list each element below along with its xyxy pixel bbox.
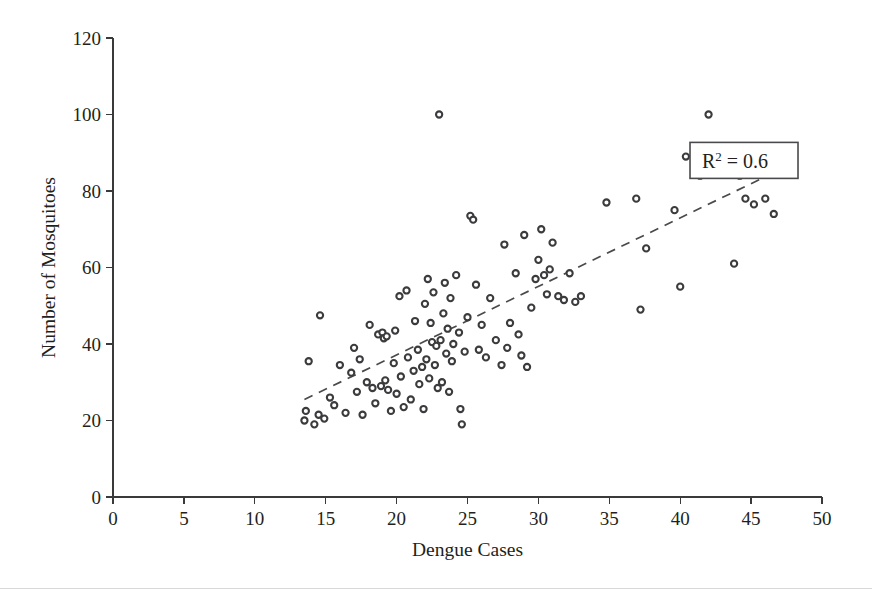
x-axis-title: Dengue Cases xyxy=(412,539,523,560)
data-point xyxy=(450,341,456,347)
data-point xyxy=(398,373,404,379)
y-tick-label: 100 xyxy=(73,104,102,125)
data-point xyxy=(449,358,455,364)
x-tick-label: 40 xyxy=(671,508,690,529)
data-point xyxy=(412,318,418,324)
data-point xyxy=(561,297,567,303)
data-point xyxy=(643,245,649,251)
data-point xyxy=(493,337,499,343)
data-point xyxy=(532,276,538,282)
data-point xyxy=(633,196,639,202)
y-axis-title: Number of Mosquitoes xyxy=(38,177,59,358)
data-point xyxy=(415,347,421,353)
data-point xyxy=(456,329,462,335)
x-tick-label: 25 xyxy=(458,508,477,529)
x-tick-label: 20 xyxy=(387,508,406,529)
data-point xyxy=(447,295,453,301)
data-point xyxy=(369,385,375,391)
y-tick-label: 20 xyxy=(82,410,101,431)
data-point xyxy=(751,201,757,207)
data-point xyxy=(504,345,510,351)
y-tick-label: 120 xyxy=(73,28,102,49)
data-point xyxy=(731,261,737,267)
data-point xyxy=(420,406,426,412)
x-tick-label: 30 xyxy=(529,508,548,529)
r2-annotation: R2 = 0.6 xyxy=(690,142,798,178)
data-point xyxy=(364,379,370,385)
data-point xyxy=(440,310,446,316)
data-point xyxy=(384,333,390,339)
data-point xyxy=(464,314,470,320)
data-point xyxy=(348,370,354,376)
data-point xyxy=(762,196,768,202)
data-point xyxy=(359,412,365,418)
data-point xyxy=(396,293,402,299)
data-point xyxy=(507,320,513,326)
data-point xyxy=(425,276,431,282)
trendline xyxy=(304,180,759,400)
data-point xyxy=(547,266,553,272)
data-point xyxy=(549,240,555,246)
data-point xyxy=(513,270,519,276)
data-point xyxy=(428,320,434,326)
data-point xyxy=(405,354,411,360)
y-tick-label: 40 xyxy=(82,334,101,355)
data-point xyxy=(443,350,449,356)
data-point xyxy=(501,241,507,247)
data-point xyxy=(470,217,476,223)
y-tick-label: 80 xyxy=(82,181,101,202)
data-point xyxy=(578,293,584,299)
data-point xyxy=(603,199,609,205)
data-point xyxy=(306,358,312,364)
data-point xyxy=(453,272,459,278)
data-point xyxy=(742,196,748,202)
x-tick-label: 10 xyxy=(245,508,264,529)
scatter-plot: 02040608010012005101520253035404550Dengu… xyxy=(0,0,872,597)
y-tick-label: 60 xyxy=(82,257,101,278)
data-point xyxy=(439,379,445,385)
x-tick-label: 50 xyxy=(813,508,832,529)
data-point xyxy=(683,153,689,159)
data-point xyxy=(572,299,578,305)
data-point xyxy=(391,360,397,366)
data-point xyxy=(483,354,489,360)
data-point xyxy=(473,282,479,288)
y-tick-label: 0 xyxy=(92,487,102,508)
data-point xyxy=(521,232,527,238)
data-point xyxy=(311,421,317,427)
data-point xyxy=(457,406,463,412)
data-point xyxy=(388,408,394,414)
data-point xyxy=(518,352,524,358)
data-point xyxy=(411,368,417,374)
data-point xyxy=(408,396,414,402)
data-point xyxy=(446,389,452,395)
data-point xyxy=(321,415,327,421)
data-point xyxy=(432,362,438,368)
data-point xyxy=(459,421,465,427)
axes-group xyxy=(113,38,822,497)
x-tick-label: 15 xyxy=(316,508,335,529)
data-point xyxy=(445,326,451,332)
data-point xyxy=(671,207,677,213)
data-point xyxy=(437,337,443,343)
x-tick-label: 45 xyxy=(742,508,761,529)
footer-divider xyxy=(0,588,872,589)
data-point xyxy=(337,362,343,368)
data-point xyxy=(515,331,521,337)
r2-annotation-label: R2 = 0.6 xyxy=(702,149,768,172)
x-tick-label: 35 xyxy=(600,508,619,529)
data-point xyxy=(354,389,360,395)
data-point xyxy=(401,404,407,410)
data-point xyxy=(528,305,534,311)
data-point xyxy=(476,347,482,353)
data-point xyxy=(403,287,409,293)
data-point xyxy=(535,257,541,263)
data-point xyxy=(422,301,428,307)
data-point xyxy=(705,111,711,117)
data-point xyxy=(462,349,468,355)
data-point xyxy=(331,402,337,408)
data-point xyxy=(479,322,485,328)
data-point xyxy=(303,408,309,414)
x-tick-label: 0 xyxy=(108,508,118,529)
data-point xyxy=(442,280,448,286)
